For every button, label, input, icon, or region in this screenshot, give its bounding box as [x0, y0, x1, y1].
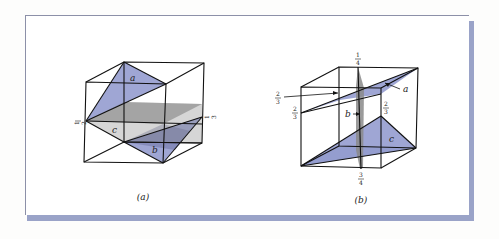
- panel-a: a b c 1 2 1 3 (a): [73, 62, 217, 202]
- svg-text:3: 3: [276, 98, 280, 105]
- plane-label-a: a: [403, 84, 408, 94]
- svg-text:2: 2: [384, 100, 388, 107]
- svg-text:3: 3: [384, 108, 388, 115]
- plane-label-a: a: [130, 73, 135, 83]
- svg-text:3: 3: [293, 113, 297, 120]
- svg-text:1: 1: [73, 121, 80, 125]
- crystal-planes-figure: a b c 1 2 1 3 (a): [0, 0, 499, 239]
- intercept-two-thirds-left: 2 3: [292, 105, 298, 120]
- arrow-head: [333, 91, 338, 95]
- svg-text:3: 3: [210, 115, 217, 119]
- intercept-half: 1 2: [73, 121, 87, 125]
- svg-text:2: 2: [80, 121, 87, 125]
- svg-text:4: 4: [356, 59, 360, 66]
- intercept-two-thirds-arrow: 2 3: [275, 90, 281, 105]
- svg-text:2: 2: [276, 90, 280, 97]
- svg-text:1: 1: [203, 115, 210, 119]
- caption-b: (b): [355, 195, 368, 205]
- svg-text:4: 4: [359, 179, 363, 186]
- plane-label-c: c: [112, 125, 117, 135]
- intercept-two-thirds-right: 2 3: [383, 100, 389, 115]
- svg-text:1: 1: [356, 51, 360, 58]
- plane-label-b: b: [152, 145, 158, 155]
- caption-a: (a): [137, 192, 150, 202]
- plane-label-c: c: [389, 134, 394, 144]
- panel-b: a b c 1 4 2 3 2 3 2 3 3 4: [275, 51, 418, 205]
- svg-text:3: 3: [359, 171, 363, 178]
- plane-label-b: b: [345, 109, 351, 119]
- intercept-three-quarters: 3 4: [358, 171, 364, 186]
- svg-text:2: 2: [293, 105, 297, 112]
- intercept-third: 1 3: [203, 115, 217, 119]
- intercept-quarter-top: 1 4: [355, 51, 361, 66]
